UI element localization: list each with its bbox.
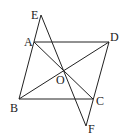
point-label-d: D [110,30,119,44]
point-label-a: A [24,35,33,49]
segments-group [19,15,109,126]
point-label-e: E [31,8,38,22]
point-label-b: B [10,101,18,115]
point-label-c: C [96,94,104,108]
point-label-f: F [88,122,95,136]
geometry-figure: ABCDEFO [0,0,126,139]
point-label-o: O [56,73,65,87]
segment-eb [19,15,41,99]
segment-ef [41,15,86,126]
